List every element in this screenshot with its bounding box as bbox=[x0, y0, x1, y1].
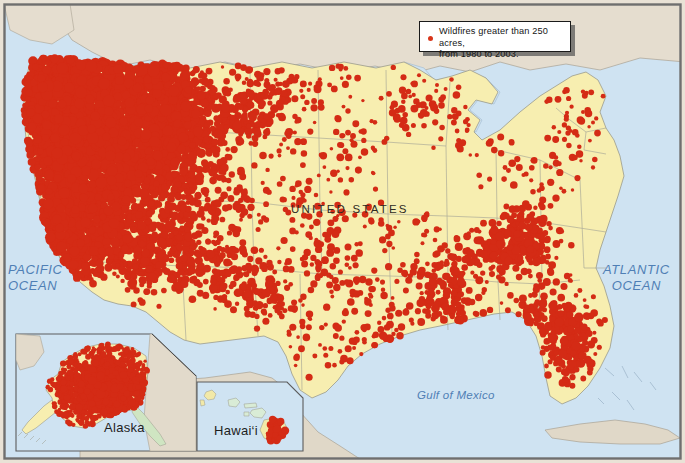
wildfire-map: PACIFIC OCEAN ATLANTIC OCEAN Gulf of Mex… bbox=[0, 0, 685, 463]
hawaii-lanai bbox=[244, 412, 249, 416]
map-legend[interactable]: Wildfires greater than 250 acres, from 1… bbox=[419, 21, 571, 52]
legend-text: Wildfires greater than 250 acres, from 1… bbox=[439, 26, 570, 61]
hawaii-molokai bbox=[244, 403, 257, 408]
map-body bbox=[0, 0, 685, 463]
legend-line-1: Wildfires greater than 250 acres, bbox=[439, 26, 570, 49]
hawaii-niihau bbox=[200, 400, 205, 406]
red-dot-icon bbox=[428, 36, 433, 41]
map-canvas bbox=[0, 0, 685, 463]
legend-line-2: from 1980 to 2003. bbox=[439, 49, 570, 61]
alaska-inset bbox=[16, 334, 196, 451]
hawaii-inset bbox=[197, 382, 303, 451]
